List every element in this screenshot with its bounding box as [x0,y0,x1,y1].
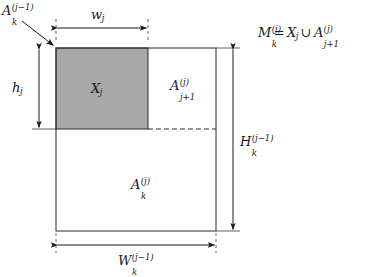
label-base: X [91,81,100,96]
label-subscript: j [100,87,103,97]
label-subscript: k [132,268,137,277]
label-superscript: (j−1) [132,253,154,262]
equation-term2-subscript: j+1 [324,40,339,49]
label-base: W [118,253,131,268]
label-outer-region-pointer: A(j−1)k [2,4,11,17]
label-shaded-height: hj [12,81,23,96]
label-right-region: A(j)j+1 [170,79,179,92]
label-total-height: H(j−1)k [240,135,251,148]
equation-lhs-base: M [258,25,271,40]
label-subscript: k [252,149,257,158]
label-subscript: j [102,13,105,23]
figure-canvas: A(j−1)k wj hj Xj A(j)j+1 A(j)k H(j−1)k W… [0,0,381,277]
equation-term1-subscript: j [296,31,299,41]
label-base: w [91,7,102,22]
equation-lhs-superscript: (j) [272,25,281,34]
label-total-width: W(j−1)k [118,254,131,267]
union-operator-icon: ∪ [301,25,312,40]
label-base: A [170,78,179,93]
label-superscript: (j−1) [252,134,274,143]
label-superscript: (j−1) [12,3,34,12]
equation-lhs-subscript: k [272,40,277,49]
label-subscript: j+1 [180,93,195,102]
label-base: A [131,177,140,192]
label-superscript: (j) [141,177,150,186]
label-subscript: k [12,18,17,27]
label-shaded-region: Xj [91,82,102,97]
label-base: A [2,3,11,18]
label-subscript: k [141,192,146,201]
label-bottom-region: A(j)k [131,178,140,191]
label-shaded-width: wj [91,8,104,23]
equation-term2-base: A [314,25,323,40]
label-subscript: j [20,86,23,96]
equation-term1-base: X [287,25,296,40]
label-superscript: (j) [180,78,189,87]
pointer-arrow-to-corner [22,21,54,46]
equation-term2-superscript: (j) [324,25,333,34]
label-base: H [240,134,251,149]
equation-set-union: M(j)k=Xj∪A(j)j+1 [258,26,323,41]
